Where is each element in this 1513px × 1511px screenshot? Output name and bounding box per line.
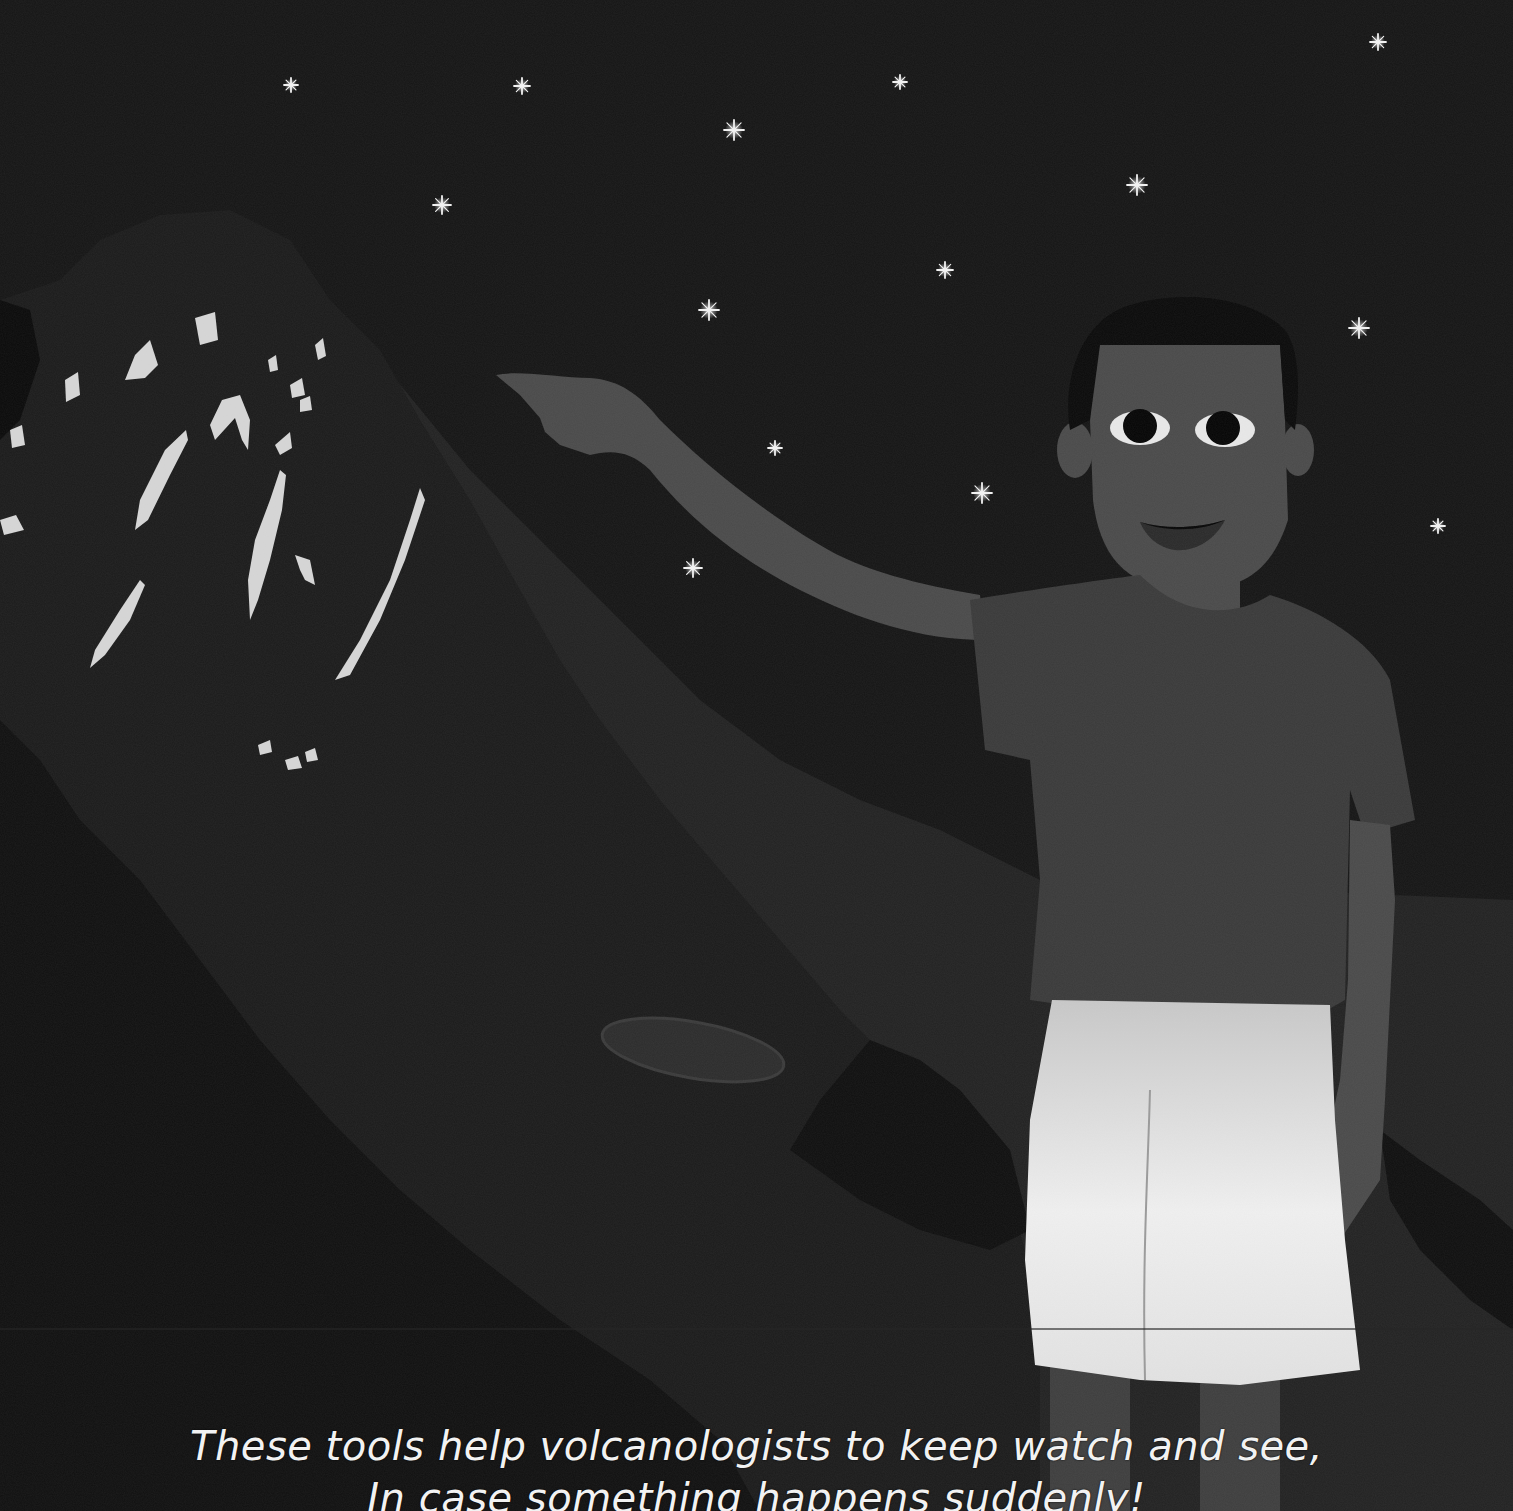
illustration (0, 0, 1513, 1511)
paper-grain (0, 0, 1513, 1511)
caption-line-2: In case something happens suddenly! (0, 1472, 1513, 1511)
storybook-page: These tools help volcanologists to keep … (0, 0, 1513, 1511)
scan-line (0, 1328, 1513, 1330)
story-caption: These tools help volcanologists to keep … (0, 1420, 1513, 1511)
caption-line-1: These tools help volcanologists to keep … (0, 1420, 1513, 1472)
